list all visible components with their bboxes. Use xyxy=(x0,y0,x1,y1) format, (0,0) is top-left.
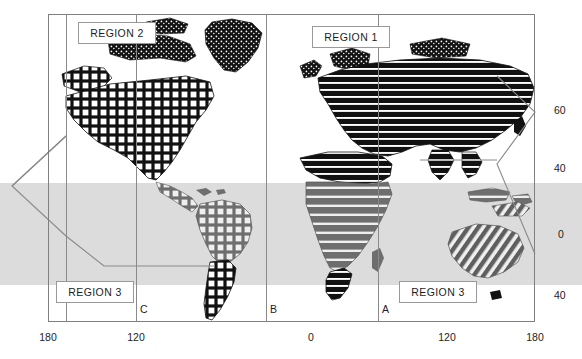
region-box-region-1[interactable]: REGION 1 xyxy=(312,26,390,48)
y-tick-40-south: 40 xyxy=(554,289,566,301)
marker-c: C xyxy=(140,303,148,315)
region-label: REGION 3 xyxy=(411,286,464,298)
x-tick-0: 0 xyxy=(308,331,314,343)
x-tick-120-west: 120 xyxy=(127,331,145,343)
marker-a: A xyxy=(382,303,389,315)
divider-inner-left xyxy=(66,14,67,322)
x-tick-180-east: 180 xyxy=(526,331,544,343)
y-tick-0: 0 xyxy=(558,228,564,240)
region-label: REGION 1 xyxy=(324,31,377,43)
marker-b: B xyxy=(270,303,277,315)
region-box-region-3-right[interactable]: REGION 3 xyxy=(399,281,477,303)
y-tick-60: 60 xyxy=(554,104,566,116)
region-label: REGION 2 xyxy=(90,27,143,39)
map-frame xyxy=(48,14,535,322)
x-tick-180-west: 180 xyxy=(39,331,57,343)
divider-b xyxy=(266,14,267,322)
region-box-region-3-left[interactable]: REGION 3 xyxy=(56,281,134,303)
y-tick-40-north: 40 xyxy=(554,162,566,174)
region-label: REGION 3 xyxy=(68,286,121,298)
divider-c xyxy=(136,14,137,322)
world-map-region-figure: REGION 2 REGION 1 REGION 3 REGION 3 C B … xyxy=(0,0,582,359)
x-tick-120-east: 120 xyxy=(438,331,456,343)
region-box-region-2[interactable]: REGION 2 xyxy=(78,22,156,44)
divider-a xyxy=(378,14,379,322)
